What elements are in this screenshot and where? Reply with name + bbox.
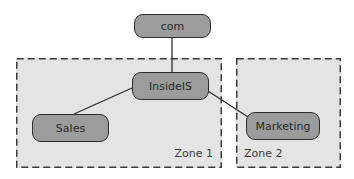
node-com-label: com	[161, 21, 185, 32]
diagram-canvas: Zone 1 Zone 2 com InsideIS Sales Marketi…	[0, 0, 354, 179]
node-insideis[interactable]: InsideIS	[132, 72, 209, 100]
zone-1-label: Zone 1	[175, 148, 214, 159]
zone-2-label: Zone 2	[244, 148, 283, 159]
node-sales[interactable]: Sales	[32, 114, 109, 142]
node-marketing-label: Marketing	[256, 121, 311, 132]
node-sales-label: Sales	[56, 123, 85, 134]
node-insideis-label: InsideIS	[149, 81, 192, 92]
node-marketing[interactable]: Marketing	[246, 112, 320, 140]
node-com[interactable]: com	[134, 14, 211, 38]
